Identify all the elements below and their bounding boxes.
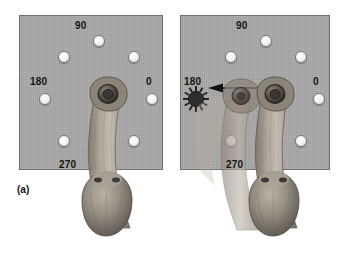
reach-panel bbox=[180, 15, 330, 170]
angle-label-180: 180 bbox=[184, 77, 201, 87]
angle-label-270: 270 bbox=[59, 160, 76, 170]
target-led-180 bbox=[39, 93, 51, 105]
monkey-arm-trajectory bbox=[195, 76, 325, 256]
angle-label-180: 180 bbox=[30, 77, 47, 87]
target-led-45 bbox=[128, 51, 140, 63]
figure-part-label: (a) bbox=[17, 185, 29, 195]
target-led-45 bbox=[295, 51, 307, 63]
angle-label-270: 270 bbox=[226, 160, 243, 170]
baseline-panel bbox=[19, 15, 163, 170]
angle-label-0: 0 bbox=[146, 77, 152, 87]
target-led-90 bbox=[93, 35, 105, 47]
target-led-135 bbox=[58, 51, 70, 63]
angle-label-0: 0 bbox=[313, 77, 319, 87]
target-led-135 bbox=[225, 51, 237, 63]
angle-label-90: 90 bbox=[236, 21, 248, 31]
target-led-90 bbox=[260, 35, 272, 47]
angle-label-90: 90 bbox=[75, 21, 87, 31]
figure-container: 90 180 0 270 bbox=[0, 0, 349, 266]
